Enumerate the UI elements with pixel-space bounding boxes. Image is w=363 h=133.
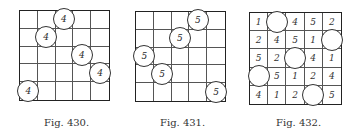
grid-cell	[305, 86, 323, 104]
cell-number: 5	[310, 17, 316, 27]
cell-number: 2	[256, 35, 262, 45]
grid-cell	[73, 11, 91, 29]
figure-caption: Fig. 432.	[276, 117, 321, 128]
cell-number: 4	[310, 53, 316, 63]
grid-figure-431: 55555	[135, 11, 226, 102]
grid-cell	[172, 48, 190, 66]
grid-cell	[73, 82, 91, 100]
grid-figure-432: 14522451524151244125	[249, 12, 342, 105]
grid-cell: 1	[268, 86, 286, 104]
grid-cell: 5	[323, 86, 341, 104]
grid-cell: 4	[305, 49, 323, 67]
grid-cell: 5	[154, 65, 172, 83]
cell-number: 4	[292, 17, 298, 27]
circle-marker: 5	[133, 45, 155, 67]
cell-number: 1	[310, 35, 316, 45]
grid-cell	[56, 64, 74, 82]
grid-cell: 4	[268, 31, 286, 49]
cell-number: 1	[292, 71, 298, 81]
circle-marker: 4	[89, 62, 111, 84]
cell-number: 2	[310, 71, 316, 81]
cell-number: 2	[274, 53, 280, 63]
figure-caption: Fig. 431.	[160, 117, 205, 128]
cell-number: 4	[256, 90, 262, 100]
grid-cell	[91, 11, 109, 29]
grid-cell: 5	[207, 83, 225, 101]
grid-cell	[250, 68, 268, 86]
cell-number: 5	[292, 35, 298, 45]
grid-cell: 5	[136, 48, 154, 66]
cell-number: 1	[274, 90, 280, 100]
circle-marker	[248, 65, 270, 87]
cell-number: 5	[256, 53, 262, 63]
circle-marker: 4	[17, 80, 39, 102]
grid-cell	[172, 65, 190, 83]
grid-cell	[56, 29, 74, 47]
circle-marker	[302, 84, 324, 106]
circle-marker: 5	[205, 81, 227, 103]
grid-cell	[207, 12, 225, 30]
grid-cell: 4	[56, 11, 74, 29]
grid-cell: 5	[305, 13, 323, 31]
circle-marker: 5	[151, 63, 173, 85]
grid-cell	[286, 49, 304, 67]
grid-cell: 4	[323, 68, 341, 86]
grid-cell	[189, 48, 207, 66]
grid-cell: 1	[286, 68, 304, 86]
grid-cell: 1	[323, 49, 341, 67]
cell-number: 5	[329, 90, 335, 100]
grid-cell	[91, 82, 109, 100]
grid-cell	[154, 83, 172, 101]
grid-cell	[20, 11, 38, 29]
cell-number: 1	[329, 53, 335, 63]
grid-cell	[38, 64, 56, 82]
grid-cell	[136, 83, 154, 101]
grid-cell	[207, 30, 225, 48]
grid-cell	[172, 83, 190, 101]
grid-cell	[136, 12, 154, 30]
grid-cell	[154, 12, 172, 30]
grid-cell: 5	[172, 30, 190, 48]
circle-marker: 5	[187, 9, 209, 31]
cell-number: 5	[274, 71, 280, 81]
grid-cell: 4	[250, 86, 268, 104]
circle-marker	[321, 29, 343, 51]
grid-figure-430: 44444	[19, 10, 110, 101]
circle-marker	[284, 47, 306, 69]
grid-cell	[189, 30, 207, 48]
cell-number: 2	[292, 90, 298, 100]
grid-cell: 2	[250, 31, 268, 49]
grid-cell	[323, 31, 341, 49]
cell-number: 1	[256, 17, 262, 27]
circle-marker: 4	[53, 8, 75, 30]
grid-cell: 4	[73, 47, 91, 65]
cell-number: 4	[329, 71, 335, 81]
grid-cell: 5	[268, 68, 286, 86]
circle-marker: 5	[169, 27, 191, 49]
circle-marker: 4	[35, 26, 57, 48]
cell-number: 4	[274, 35, 280, 45]
grid-cell	[56, 82, 74, 100]
grid-cell: 4	[286, 13, 304, 31]
cell-number: 2	[329, 17, 335, 27]
grid-cell: 4	[38, 29, 56, 47]
grid-cell	[20, 47, 38, 65]
grid-cell	[207, 48, 225, 66]
grid-cell	[38, 82, 56, 100]
grid-cell: 5	[189, 12, 207, 30]
grid-cell: 4	[20, 82, 38, 100]
grid-cell	[268, 13, 286, 31]
grid-cell: 4	[91, 64, 109, 82]
grid-cell	[91, 29, 109, 47]
circle-marker	[266, 11, 288, 33]
grid-cell	[38, 47, 56, 65]
figure-caption: Fig. 430.	[44, 117, 89, 128]
circle-marker: 4	[71, 44, 93, 66]
grid-cell	[189, 65, 207, 83]
